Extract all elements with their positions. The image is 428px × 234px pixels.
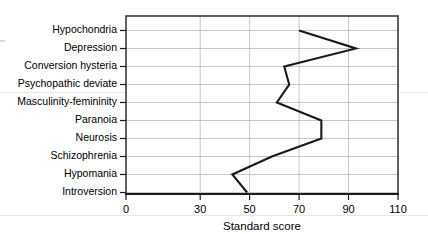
chart-container: Hypochondria Depression Conversion hyste… — [0, 0, 428, 234]
y-tick-label: Masculinity-femininity — [17, 95, 118, 107]
plot-area-background — [126, 16, 398, 194]
y-tick-label: Schizophrenia — [50, 149, 117, 161]
x-axis-tick-labels: 0 30 50 70 90 110 — [123, 203, 407, 215]
y-axis-tick-labels: Hypochondria Depression Conversion hyste… — [17, 23, 118, 197]
y-tick-label: Hypochondria — [52, 23, 117, 35]
x-axis-title: Standard score — [223, 220, 301, 232]
x-tick-label: 50 — [243, 203, 255, 215]
y-tick-label: Introversion — [62, 185, 117, 197]
y-tick-label: Neurosis — [76, 131, 117, 143]
y-tick-label: Depression — [64, 41, 117, 53]
x-tick-label: 30 — [194, 203, 206, 215]
line-chart: Hypochondria Depression Conversion hyste… — [0, 0, 428, 234]
x-tick-label: 70 — [293, 203, 305, 215]
y-tick-label: Conversion hysteria — [24, 59, 117, 71]
x-tick-label: 90 — [342, 203, 354, 215]
x-tick-label: 110 — [389, 203, 407, 215]
y-tick-label: Hypomania — [64, 167, 117, 179]
y-tick-label: Psychopathic deviate — [18, 77, 117, 89]
y-tick-label: Paranoia — [75, 113, 117, 125]
y-tick-marks — [120, 31, 126, 193]
x-tick-label: 0 — [123, 203, 129, 215]
